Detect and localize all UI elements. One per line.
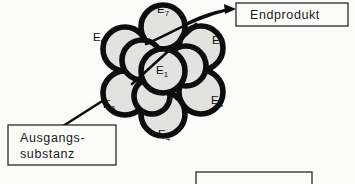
cropped-bottom-box[interactable] (196, 172, 312, 184)
substrate-label-line2: substanz (20, 147, 75, 161)
endproduct-box[interactable]: Endprodukt (236, 3, 348, 26)
substrate-box[interactable]: Ausgangs- substanz (8, 125, 116, 165)
cropped-bottom-box-outline (196, 172, 312, 184)
figure-page: E7 E6 E2 E1 E3 E5 E4 Endprodukt Ausgangs… (0, 0, 355, 184)
substrate-label-line1: Ausgangs- (20, 131, 85, 145)
enzyme-complex-diagram: E7 E6 E2 E1 E3 E5 E4 Endprodukt Ausgangs… (0, 0, 355, 184)
endproduct-label: Endprodukt (250, 8, 320, 22)
